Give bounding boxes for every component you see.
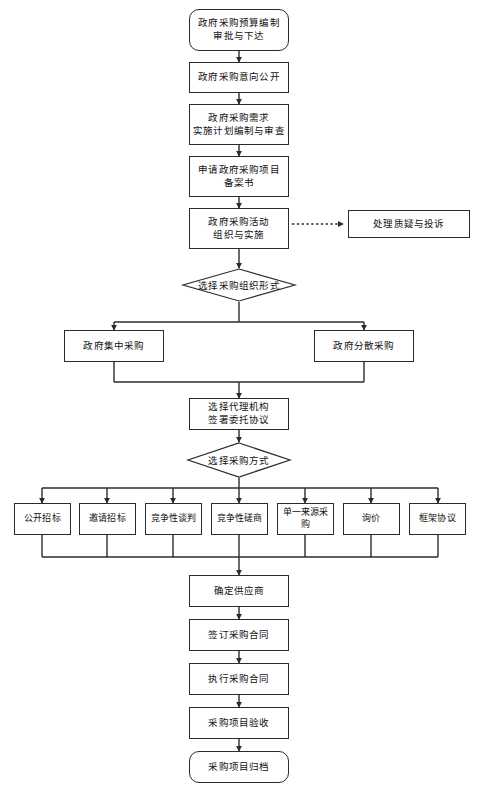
node-org-form[interactable]: 选择采购组织形式 [182,268,296,302]
node-method-framework-agreement[interactable]: 框架协议 [409,503,466,535]
node-method-inquiry[interactable]: 询价 [343,503,400,535]
node-supplier[interactable]: 确定供应商 [189,575,289,607]
node-demand[interactable]: 政府采购需求 实施计划编制与审查 [189,104,289,145]
node-method-competitive-negotiation[interactable]: 竞争性谈判 [145,503,202,535]
node-filing[interactable]: 申请政府采购项目 备案书 [189,156,289,197]
node-method-open-tender[interactable]: 公开招标 [14,503,71,535]
flowchart-canvas: 政府采购预算编制 审批与下达 政府采购意向公开 政府采购需求 实施计划编制与审查… [0,0,482,786]
node-activity[interactable]: 政府采购活动 组织与实施 [189,208,289,249]
node-budget[interactable]: 政府采购预算编制 审批与下达 [189,9,289,51]
node-method-invited-tender[interactable]: 邀请招标 [79,503,136,535]
node-complaint[interactable]: 处理质疑与投诉 [348,210,470,238]
node-method-competitive-consultation[interactable]: 竞争性磋商 [211,503,268,535]
node-acceptance[interactable]: 采购项目验收 [189,707,289,739]
node-org-form-label: 选择采购组织形式 [182,268,296,302]
node-archive[interactable]: 采购项目归档 [189,751,289,783]
node-method-single-source[interactable]: 单一来源采购 [277,503,334,535]
node-decentralized[interactable]: 政府分散采购 [314,330,414,362]
node-sign-contract[interactable]: 签订采购合同 [189,619,289,651]
node-execute-contract[interactable]: 执行采购合同 [189,663,289,695]
node-method-label: 选择采购方式 [187,442,291,478]
node-intention[interactable]: 政府采购意向公开 [189,62,289,93]
node-method[interactable]: 选择采购方式 [187,442,291,478]
node-agency[interactable]: 选择代理机构 签署委托协议 [189,398,289,430]
node-centralized[interactable]: 政府集中采购 [64,330,164,362]
